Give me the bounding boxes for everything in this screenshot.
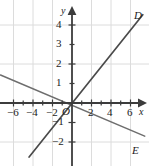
x-tick-label-4: 4 [107,107,113,118]
x-tick-label-neg4: −4 [26,107,38,118]
y-tick-label-1: 1 [56,77,62,88]
y-tick-label-2: 2 [56,58,62,69]
x-axis-label: x [139,107,143,117]
y-axis-label: y [61,6,65,16]
line-label-D: D [134,10,142,21]
chart-canvas [0,0,149,166]
coordinate-plane-chart: 4 3 2 1 −1 −2 −6 −4 −2 2 4 6 O y x D E [0,0,149,166]
line-label-E: E [132,145,139,156]
y-tick-label-3: 3 [56,38,62,49]
y-tick-label-4: 4 [56,19,62,30]
x-tick-label-neg6: −6 [7,107,19,118]
x-tick-label-neg2: −2 [46,107,58,118]
x-tick-label-6: 6 [127,107,133,118]
y-tick-label-neg2: −2 [52,136,64,147]
x-tick-label-2: 2 [88,107,94,118]
origin-label: O [62,106,70,117]
